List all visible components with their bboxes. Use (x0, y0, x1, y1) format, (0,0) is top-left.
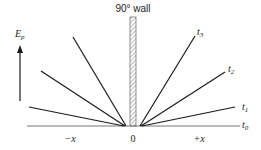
label-t2: t2 (228, 63, 235, 76)
label-t3: t3 (197, 26, 204, 39)
energy-axis-label: Ep (14, 28, 25, 41)
wall-energy-diagram: 90° wall Ep t3 t2 t1 t0 −x 0 +x (0, 0, 261, 150)
energy-axis-arrow (17, 45, 23, 101)
right-energy-lines (140, 36, 235, 126)
x-label-positive: +x (193, 133, 205, 144)
line-t3-left (73, 37, 126, 126)
left-energy-lines (29, 37, 126, 126)
ninety-degree-wall (130, 17, 136, 126)
label-t1: t1 (242, 101, 248, 114)
wall-label: 90° wall (115, 3, 150, 14)
label-t0: t0 (242, 119, 249, 132)
x-label-negative: −x (64, 133, 76, 144)
line-t3-right (140, 36, 195, 126)
x-label-zero: 0 (131, 133, 136, 144)
